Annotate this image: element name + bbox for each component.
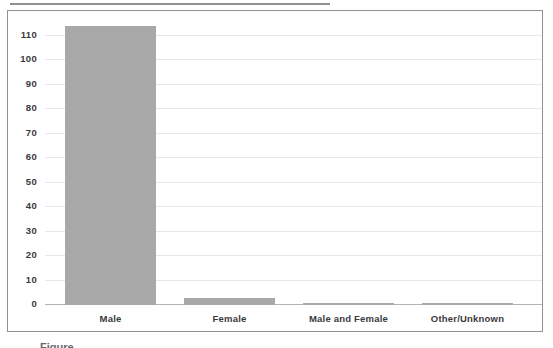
screenshot-stage: 0102030405060708090100110 MaleFemaleMale… xyxy=(0,0,553,348)
y-tick-label-0: 0 xyxy=(8,298,37,310)
x-axis-labels: MaleFemaleMale and FemaleOther/Unknown xyxy=(51,305,527,331)
x-tick-label-0: Male xyxy=(51,305,170,331)
y-tick-label-70: 70 xyxy=(8,127,37,139)
y-tick-label-30: 30 xyxy=(8,225,37,237)
bar-male xyxy=(65,26,155,305)
bar-female xyxy=(184,298,274,305)
y-tick-label-80: 80 xyxy=(8,102,37,114)
y-tick-label-60: 60 xyxy=(8,151,37,163)
x-tick-label-2: Male and Female xyxy=(289,305,408,331)
y-tick-label-100: 100 xyxy=(8,53,37,65)
bar-chart: 0102030405060708090100110 MaleFemaleMale… xyxy=(7,10,543,332)
bars-row xyxy=(51,11,527,305)
y-tick-label-90: 90 xyxy=(8,78,37,90)
x-tick-label-1: Female xyxy=(170,305,289,331)
x-tick-label-3: Other/Unknown xyxy=(408,305,527,331)
y-tick-label-110: 110 xyxy=(8,29,37,41)
bar-cell-1 xyxy=(170,11,289,305)
figure-caption-partial: Figure xyxy=(40,341,74,348)
bar-cell-2 xyxy=(289,11,408,305)
plot-area: 0102030405060708090100110 xyxy=(45,11,542,305)
bar-cell-0 xyxy=(51,11,170,305)
y-tick-label-10: 10 xyxy=(8,274,37,286)
y-tick-label-20: 20 xyxy=(8,249,37,261)
bar-cell-3 xyxy=(408,11,527,305)
cropped-top-rule xyxy=(10,3,330,5)
y-tick-label-50: 50 xyxy=(8,176,37,188)
y-tick-label-40: 40 xyxy=(8,200,37,212)
